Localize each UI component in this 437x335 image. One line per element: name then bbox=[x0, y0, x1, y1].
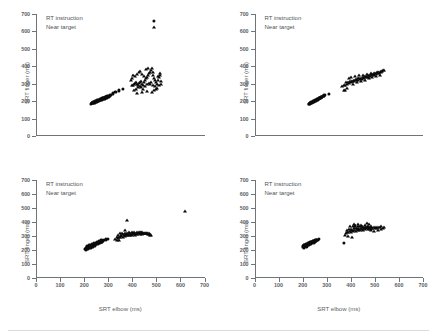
panel-top-left: SRT finger (ms) RT instructionNear targe… bbox=[0, 0, 219, 166]
panel-bottom-left: SRT finger (ms) RT instructionNear targe… bbox=[0, 166, 219, 318]
data-point-triangle bbox=[367, 222, 371, 225]
data-point-circle bbox=[121, 88, 124, 91]
data-point-triangle bbox=[145, 90, 149, 93]
x-tick-label: 400 bbox=[128, 282, 137, 288]
annotation-line: Near target bbox=[265, 189, 302, 198]
annotation-bottom-left: RT instructionNear target bbox=[46, 180, 83, 198]
panel-top-right: SRT finger (ms) RT instructionNear targe… bbox=[219, 0, 437, 166]
y-tick-label: 100 bbox=[21, 261, 30, 267]
data-point-triangle bbox=[159, 79, 163, 82]
x-tick-label: 600 bbox=[394, 282, 403, 288]
data-point-circle bbox=[152, 19, 155, 22]
y-tick bbox=[32, 236, 36, 237]
x-tick-label: 500 bbox=[152, 282, 161, 288]
data-point-triangle bbox=[378, 74, 382, 77]
annotation-line: RT instruction bbox=[265, 180, 302, 189]
y-tick-label: 500 bbox=[21, 205, 30, 211]
annotation-line: RT instruction bbox=[46, 180, 83, 189]
y-tick-label: 0 bbox=[246, 275, 249, 281]
y-tick-label: 400 bbox=[240, 63, 249, 69]
data-point-triangle bbox=[152, 26, 156, 29]
y-tick-label: 200 bbox=[21, 98, 30, 104]
y-tick-label: 200 bbox=[240, 247, 249, 253]
y-tick bbox=[251, 31, 255, 32]
annotation-line: RT instruction bbox=[265, 14, 302, 23]
data-point-circle bbox=[94, 244, 97, 247]
y-tick bbox=[251, 119, 255, 120]
y-tick-label: 0 bbox=[27, 275, 30, 281]
y-tick bbox=[32, 194, 36, 195]
y-tick-label: 600 bbox=[21, 28, 30, 34]
data-point-triangle bbox=[148, 82, 152, 85]
y-axis-title-bottom-right: SRT finger (ms) bbox=[243, 221, 249, 263]
data-point-triangle bbox=[350, 235, 354, 238]
data-point-triangle bbox=[147, 233, 151, 236]
annotation-line: RT instruction bbox=[46, 14, 83, 23]
y-axis-line bbox=[255, 180, 256, 278]
y-tick-label: 400 bbox=[21, 219, 30, 225]
x-tick-label: 400 bbox=[346, 282, 355, 288]
y-tick bbox=[32, 264, 36, 265]
y-tick bbox=[251, 49, 255, 50]
y-tick-label: 300 bbox=[21, 81, 30, 87]
data-point-triangle bbox=[382, 69, 386, 72]
y-tick bbox=[32, 14, 36, 15]
y-tick-label: 200 bbox=[240, 98, 249, 104]
y-tick-label: 700 bbox=[240, 177, 249, 183]
y-tick bbox=[251, 222, 255, 223]
data-point-triangle bbox=[129, 79, 133, 82]
y-tick-label: 700 bbox=[21, 11, 30, 17]
y-axis-line bbox=[255, 14, 256, 136]
y-tick bbox=[251, 194, 255, 195]
y-tick bbox=[251, 250, 255, 251]
y-tick bbox=[32, 180, 36, 181]
data-point-triangle bbox=[142, 74, 146, 77]
y-tick-label: 300 bbox=[240, 233, 249, 239]
data-point-triangle bbox=[342, 89, 346, 92]
data-point-triangle bbox=[345, 228, 349, 231]
x-tick-label: 700 bbox=[419, 282, 428, 288]
annotation-bottom-right: RT instructionNear target bbox=[265, 180, 302, 198]
y-tick bbox=[32, 84, 36, 85]
data-point-triangle bbox=[140, 91, 144, 94]
x-tick-label: 0 bbox=[253, 282, 256, 288]
annotation-line: Near target bbox=[46, 23, 83, 32]
x-tick-label: 100 bbox=[56, 282, 65, 288]
y-tick-label: 400 bbox=[21, 63, 30, 69]
y-tick-label: 0 bbox=[246, 133, 249, 139]
y-tick-label: 200 bbox=[21, 247, 30, 253]
y-tick-label: 300 bbox=[21, 233, 30, 239]
y-tick-label: 0 bbox=[27, 133, 30, 139]
panel-bottom-right: SRT finger (ms) RT instructionNear targe… bbox=[219, 166, 437, 318]
y-tick bbox=[251, 14, 255, 15]
data-point-triangle bbox=[159, 82, 163, 85]
data-point-triangle bbox=[117, 239, 121, 242]
y-axis-line bbox=[36, 14, 37, 136]
x-axis-line bbox=[255, 277, 424, 278]
y-tick bbox=[251, 180, 255, 181]
footer-divider bbox=[8, 330, 429, 331]
x-axis-line bbox=[36, 277, 205, 278]
x-tick-label: 700 bbox=[200, 282, 209, 288]
y-tick-label: 100 bbox=[240, 116, 249, 122]
x-tick-label: 300 bbox=[104, 282, 113, 288]
data-point-triangle bbox=[125, 219, 129, 222]
y-tick bbox=[32, 31, 36, 32]
y-axis-title-bottom-left: SRT finger (ms) bbox=[24, 221, 30, 263]
data-point-triangle bbox=[123, 229, 127, 232]
y-tick-label: 500 bbox=[240, 205, 249, 211]
x-tick-label: 0 bbox=[35, 282, 38, 288]
y-tick-label: 100 bbox=[240, 261, 249, 267]
y-tick bbox=[32, 119, 36, 120]
x-axis-line bbox=[36, 135, 205, 136]
data-point-triangle bbox=[183, 209, 187, 212]
plot-area-bottom-left: RT instructionNear target 01002003004005… bbox=[36, 180, 205, 278]
y-tick-label: 700 bbox=[21, 177, 30, 183]
data-point-circle bbox=[317, 237, 320, 240]
y-tick bbox=[251, 101, 255, 102]
y-tick bbox=[251, 136, 255, 137]
data-point-circle bbox=[312, 241, 315, 244]
annotation-top-left: RT instructionNear target bbox=[46, 14, 83, 32]
y-tick-label: 600 bbox=[240, 28, 249, 34]
y-tick bbox=[251, 236, 255, 237]
